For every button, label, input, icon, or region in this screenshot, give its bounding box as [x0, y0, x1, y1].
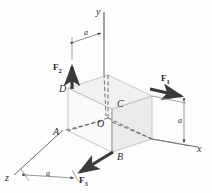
figure-canvas: y x z O A B C D F1 F2 F3 a a a — [0, 0, 212, 193]
axis-label-y: y — [96, 7, 100, 17]
dimension-right — [152, 96, 190, 146]
dimension-bottom — [21, 169, 79, 182]
force-1-subscript: 1 — [167, 78, 170, 85]
force-2-subscript: 2 — [59, 67, 62, 74]
force-3-arrow — [80, 152, 113, 172]
force-1-arrow — [150, 89, 181, 96]
dimension-label-bottom: a — [46, 170, 50, 178]
cube-solid — [68, 75, 152, 152]
axis-label-x: x — [197, 144, 201, 154]
point-label-O: O — [97, 119, 104, 129]
point-label-A: A — [53, 127, 59, 137]
force-3-subscript: 3 — [85, 180, 88, 187]
point-label-D: D — [59, 84, 66, 94]
point-label-C: C — [117, 99, 124, 109]
force-label-1: F1 — [161, 74, 170, 85]
dimension-label-top: a — [84, 29, 88, 37]
dimension-label-right: a — [178, 117, 182, 125]
force-label-3: F3 — [79, 176, 88, 187]
force-label-2: F2 — [53, 63, 62, 74]
dimension-top — [72, 12, 104, 60]
point-label-B: B — [117, 152, 123, 162]
diagram-svg — [0, 0, 212, 193]
axis-label-z: z — [5, 173, 9, 183]
